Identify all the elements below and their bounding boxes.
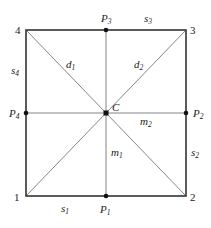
corner-label-2: 2 [190,191,196,203]
diagonal-label-d2: d2 [134,58,144,72]
center-node-c [104,111,109,116]
square-element-diagram: 1 2 3 4 C P1 P2 P3 P4 s1 s2 s3 s4 d1 d2 … [0,0,211,228]
corner-label-4: 4 [15,24,21,36]
midpoint-label-p3: P3 [100,12,112,26]
median-label-m1: m1 [111,146,123,160]
side-label-s3: s3 [144,12,152,26]
corner-label-1: 1 [14,191,20,203]
midpoint-p3-node [104,28,109,33]
midpoint-label-p2: P2 [192,107,204,121]
diagonal-label-d1: d1 [66,58,75,72]
corner-label-3: 3 [190,24,196,36]
side-label-s4: s4 [11,64,19,78]
midpoint-label-p1: P1 [99,203,110,217]
center-label-c: C [112,101,120,113]
midpoint-p2-node [184,111,189,116]
median-label-m2: m2 [140,115,152,129]
side-label-s1: s1 [61,202,69,216]
midpoint-label-p4: P4 [8,107,20,121]
side-label-s2: s2 [191,146,199,160]
midpoint-p1-node [104,194,109,199]
midpoint-p4-node [24,111,29,116]
